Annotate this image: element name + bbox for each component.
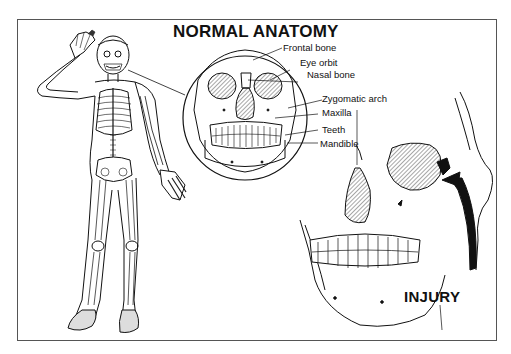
diagram-title: NORMAL ANATOMY (173, 22, 339, 42)
label-mandible: Mandible (320, 139, 359, 149)
skeleton-figure-icon (37, 30, 186, 333)
label-frontal-bone: Frontal bone (283, 43, 336, 53)
label-zygomatic-arch: Zygomatic arch (322, 94, 387, 104)
label-teeth: Teeth (322, 125, 345, 135)
label-eye-orbit: Eye orbit (300, 58, 338, 68)
injury-label: INJURY (404, 288, 460, 305)
label-maxilla: Maxilla (322, 108, 352, 118)
label-nasal-bone: Nasal bone (307, 70, 355, 80)
